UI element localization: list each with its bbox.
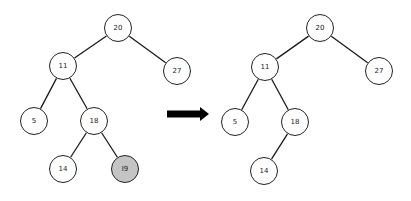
after-edge: [276, 36, 308, 59]
before-tree-node: 27: [163, 57, 191, 85]
after-tree-node: 18: [281, 108, 309, 136]
before-tree-node: 20: [104, 14, 132, 42]
after-tree-node: 20: [306, 14, 334, 42]
after-edge: [242, 79, 259, 109]
before-tree-node: 14: [49, 155, 77, 183]
before-edge: [75, 36, 107, 58]
before-edge: [41, 78, 57, 108]
after-tree-node: 11: [251, 53, 279, 81]
after-tree-node: 14: [250, 157, 278, 185]
before-edge: [70, 78, 87, 109]
after-tree-node: 27: [365, 57, 393, 85]
before-tree-node: 5: [20, 107, 48, 135]
before-edge: [129, 36, 165, 63]
tree-diagram: 20112751814I920112751814: [0, 0, 411, 201]
before-edge: [71, 133, 87, 157]
before-tree-node-highlighted: I9: [111, 155, 139, 183]
before-tree-node: 11: [49, 52, 77, 80]
after-tree-node: 5: [221, 108, 249, 136]
after-edge: [272, 79, 289, 109]
before-tree-node: 18: [80, 107, 108, 135]
before-edge: [102, 133, 118, 157]
arrow-icon: [167, 107, 209, 121]
after-edge: [331, 36, 367, 63]
after-edge: [271, 134, 287, 159]
